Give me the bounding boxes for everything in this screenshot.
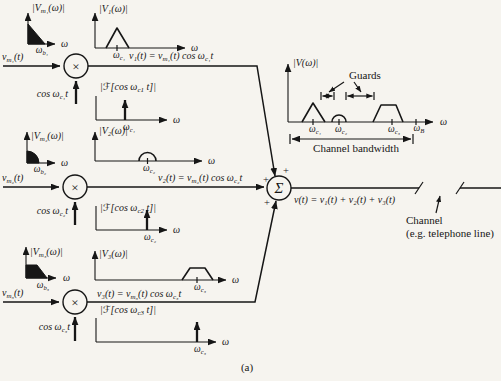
omega-label: ω [191,42,198,53]
spectrum-ylabel: |V(ω)| [293,57,318,69]
composite-spectrum: |V(ω)| ω ωc₁ ωc₂ ωc₃ ωB Guards Channel b… [288,57,447,154]
spectrum-ylabel: |Vm₃(ω)| [30,246,63,259]
tick-label: ωc₁ [113,50,125,61]
message-spectrum-1: |Vm₁(ω)| ωb₁ ω [28,2,68,56]
omega-label: ω [232,274,239,285]
tick-label: ωc₂ [335,124,348,135]
carrier-spectrum-2: |ℱ[cos ωc2 t]| ωc₂ ω [96,202,180,243]
spectrum-ylabel: |V₂(ω)| [99,125,128,137]
omega-label: ω [63,272,70,283]
omega-label: ω [61,38,68,49]
spectrum-ylabel: |V₃(ω)| [99,248,128,260]
output-section: v(t) = v₁(t) + v₂(t) + v₃(t) Channel (e.… [291,182,501,240]
modulated-equation: v₂(t) = vm₂(t) cos ωc₂t [158,172,242,185]
multiplier-symbol: × [71,295,78,310]
channel-sublabel: (e.g. telephone line) [406,227,494,240]
spectrum-shape [26,265,47,278]
carrier-label: cos ωc₂t [37,205,68,218]
sum-equation: v(t) = v₁(t) + v₂(t) + v₃(t) [294,194,396,206]
channel-2: |Vm₂(ω)| ωb₂ ω vm₂(t) × cos ωc₂t v₂(t) =… [2,125,264,243]
input-signal-label: vm₁(t) [2,51,24,64]
channel-3: |Vm₃(ω)| ωb₃ ω vm₃(t) × cos ωc₃t v₃(t) =… [2,201,276,355]
fdm-transmitter-diagram: |Vm₁(ω)| ωb₁ ω vm₁(t) × cos ωc₁t v₁(t) =… [0,0,501,381]
multiplier-symbol: × [72,59,79,74]
message-spectrum-2: |Vm₂(ω)| ωb₂ ω [27,130,68,175]
figure-caption: (a) [241,361,254,374]
tick-label: ωb₃ [37,280,50,291]
spectrum-shape [27,151,39,163]
tick-label: ωc₂ [143,163,156,174]
omega-label: ω [173,224,180,235]
spectrum-shape [28,24,45,44]
input-signal-label: vm₃(t) [2,287,24,300]
tick-label: ωc₃ [388,124,401,135]
guards-pointer-arrow [329,82,344,92]
tick-label: ωb₁ [36,45,48,56]
carrier-label: cos ωc₃t [39,321,70,334]
guards-label: Guards [349,69,381,81]
omega-label: ω [61,157,68,168]
tick-label: ωB [414,123,425,134]
input-signal-label: vm₂(t) [2,172,24,185]
spectrum-ylabel: |Vm₂(ω)| [31,130,64,143]
channel-pointer-arrow [436,196,440,213]
tick-label: ωc₁ [309,124,321,135]
spectrum-ylabel: |V₁(ω)| [99,3,128,15]
plus-sign-top: + [283,165,289,176]
channel-label: Channel [406,214,443,226]
plus-sign-bottom: + [264,197,270,208]
omega-label: ω [173,114,180,125]
omega-label: ω [222,336,229,347]
spectrum-ylabel: |ℱ[cos ωc3 t]| [100,304,156,317]
modulated-spectrum-2: |V₂(ω)| ωc₂ ω [95,125,215,174]
guard-bands: Guards [321,69,381,100]
message-spectrum-3: |Vm₃(ω)| ωb₃ ω [26,246,70,291]
guards-pointer-arrow [354,82,361,92]
bandwidth-annotation: Channel bandwidth [290,134,413,154]
multiplier-symbol: × [71,180,78,195]
summer: Σ + + + [263,165,291,208]
tick-label: ωc₃ [194,344,207,355]
tick-label: ωc₂ [144,232,157,243]
modulated-equation: v₁(t) = vm₁(t) cos ωc₁t [129,50,213,63]
omega-label: ω [208,155,215,166]
modulated-equation: v₃(t) = vm₃(t) cos ωc₃t [97,288,181,301]
carrier-spectrum-3: |ℱ[cos ωc3 t]| ωc₃ ω [96,304,229,355]
summer-symbol: Σ [274,180,284,196]
tick-label: ωb₂ [34,164,47,175]
channel-1: |Vm₁(ω)| ωb₁ ω vm₁(t) × cos ωc₁t v₁(t) =… [2,2,275,176]
tick-label: ωc₃ [194,282,207,293]
modulated-spectrum-3: |V₃(ω)| ωc₃ ω [95,248,239,293]
spectrum-ylabel: |Vm₁(ω)| [32,2,65,15]
omega-label: ω [440,116,447,127]
bandwidth-label: Channel bandwidth [313,142,399,154]
band-3-trapezoid [373,105,403,122]
carrier-label: cos ωc₁t [37,88,68,101]
plus-sign-left: + [263,174,269,185]
spectrum-ylabel: |ℱ[cos ωc1 t]| [100,81,156,94]
